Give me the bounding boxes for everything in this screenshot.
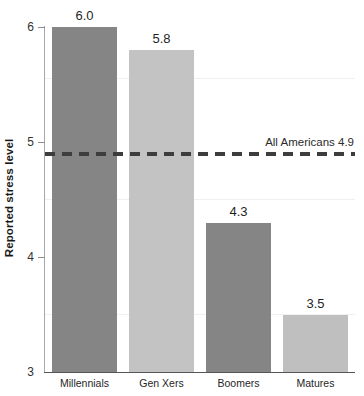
y-axis-title: Reported stress level xyxy=(0,0,18,396)
bar-value-gen-xers: 5.8 xyxy=(129,32,194,46)
x-tick-label-boomers: Boomers xyxy=(194,376,283,390)
x-tick-label-gen-xers: Gen Xers xyxy=(117,376,206,390)
x-tick-label-matures: Matures xyxy=(271,376,360,390)
y-tick-mark-4 xyxy=(38,257,45,258)
bar-chart: Reported stress level 6 5 4 3 6.0 5.8 4.… xyxy=(0,0,364,396)
reference-line-all-americans xyxy=(45,152,355,156)
y-tick-mark-5 xyxy=(38,142,45,143)
bar-matures[interactable] xyxy=(283,315,348,373)
x-tick-label-millennials: Millennials xyxy=(40,376,129,390)
y-tick-label-6: 6 xyxy=(4,21,34,33)
bar-value-matures: 3.5 xyxy=(283,297,348,311)
bar-value-boomers: 4.3 xyxy=(206,205,271,219)
bar-value-millennials: 6.0 xyxy=(52,9,117,23)
y-tick-label-5: 5 xyxy=(4,136,34,148)
y-tick-label-4: 4 xyxy=(4,251,34,263)
y-tick-mark-6 xyxy=(38,27,45,28)
reference-line-label: All Americans 4.9 xyxy=(228,135,354,149)
bar-boomers[interactable] xyxy=(206,223,271,373)
y-axis-line xyxy=(44,26,45,373)
y-tick-label-3: 3 xyxy=(4,366,34,378)
x-axis-line xyxy=(44,372,355,373)
bar-millennials[interactable] xyxy=(52,27,117,372)
bar-gen-xers[interactable] xyxy=(129,50,194,372)
